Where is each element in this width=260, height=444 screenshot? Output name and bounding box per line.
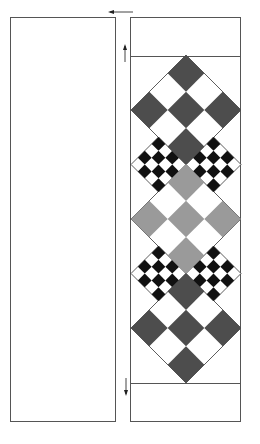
left-arrow-icon [108, 10, 133, 14]
up-arrow-icon [123, 44, 127, 62]
down-arrow-icon [124, 378, 128, 396]
arrows-layer [0, 0, 260, 444]
